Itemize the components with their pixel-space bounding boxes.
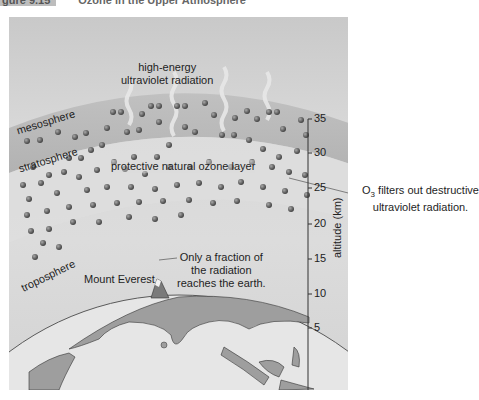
altitude-axis-title: altitude (km) [331,197,343,258]
mount-everest-label: Mount Everest [84,273,155,286]
fraction-leader-line [159,258,177,260]
tick-25: 25 [314,181,326,193]
fraction-note: Only a fraction of the radiation reaches… [177,251,266,290]
figure-title-text: Ozone in the Upper Atmosphere [78,0,246,6]
tick-5: 5 [314,321,320,333]
o3-note: O3 filters out destructive ultraviolet r… [362,184,479,214]
atmosphere-diagram: high-energy ultraviolet radiation mesosp… [9,17,348,390]
uv-radiation-label: high-energy ultraviolet radiation [121,61,213,87]
ozone-layer-label: protective natural ozone layer [111,160,255,173]
figure-label: gure 9.15 [0,0,56,6]
tick-15: 15 [314,252,326,264]
tick-35: 35 [314,112,326,124]
figure-title: gure 9.15Ozone in the Upper Atmosphere [0,0,246,8]
tick-30: 30 [314,146,326,158]
tick-10: 10 [314,287,326,299]
tick-20: 20 [314,217,326,229]
earth-globe [9,295,348,390]
